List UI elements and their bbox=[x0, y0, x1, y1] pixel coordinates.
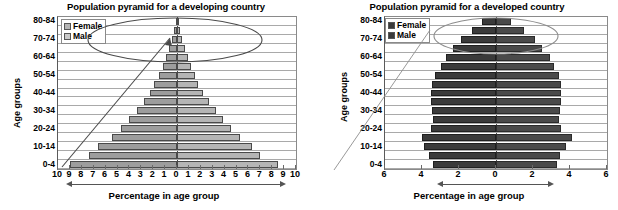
x-tick-label-10: 0 bbox=[173, 169, 178, 179]
bar-female-0-4 bbox=[177, 161, 278, 168]
x-tick-label-6: 6 bbox=[603, 169, 608, 179]
bar-male-30-34 bbox=[432, 107, 496, 114]
x-tick-label-18: 8 bbox=[269, 169, 274, 179]
x-tick-mark bbox=[176, 165, 177, 169]
x-axis-range-arrow-developed bbox=[437, 180, 554, 189]
x-tick-label-13: 3 bbox=[209, 169, 214, 179]
x-tick-mark bbox=[140, 165, 141, 169]
arrow-shaft bbox=[71, 184, 281, 185]
y-tick-label-0-4: 0-4 bbox=[370, 160, 382, 168]
y-tick-label-10-14: 10-14 bbox=[360, 142, 382, 150]
y-tick-label-40-44: 40-44 bbox=[33, 88, 55, 96]
x-tick-mark bbox=[283, 165, 284, 169]
x-tick-mark bbox=[495, 165, 496, 169]
bar-male-15-19 bbox=[422, 134, 496, 141]
x-tick-mark bbox=[384, 165, 385, 169]
bar-female-70-74 bbox=[177, 36, 182, 43]
x-tick-label-20: 10 bbox=[290, 169, 300, 179]
bar-male-30-34 bbox=[137, 107, 177, 114]
bar-female-40-44 bbox=[496, 90, 561, 97]
bar-female-15-19 bbox=[496, 134, 572, 141]
bar-male-60-64 bbox=[166, 54, 177, 61]
bar-female-30-34 bbox=[177, 107, 216, 114]
y-axis-ticks-developed: 0-410-1420-2430-3440-4450-5460-6470-7480… bbox=[348, 16, 382, 168]
bar-female-0-4 bbox=[496, 161, 557, 168]
bar-female-20-24 bbox=[496, 125, 561, 132]
legend-item-male: Male bbox=[388, 30, 426, 40]
x-tick-label-19: 9 bbox=[281, 169, 286, 179]
bar-female-75-79 bbox=[177, 27, 180, 34]
x-tick-mark bbox=[458, 165, 459, 169]
bar-female-65-69 bbox=[496, 45, 542, 52]
x-tick-mark bbox=[224, 165, 225, 169]
y-tick-label-50-54: 50-54 bbox=[360, 70, 382, 78]
x-tick-mark bbox=[105, 165, 106, 169]
bar-female-20-24 bbox=[177, 125, 231, 132]
x-tick-label-14: 4 bbox=[221, 169, 226, 179]
y-tick-label-70-74: 70-74 bbox=[33, 34, 55, 42]
legend-swatch-female-icon bbox=[388, 22, 395, 29]
bar-male-45-49 bbox=[154, 81, 177, 88]
legend-developed: Female Male bbox=[385, 18, 430, 43]
y-tick-label-80-84: 80-84 bbox=[360, 16, 382, 24]
y-tick-label-80-84: 80-84 bbox=[33, 16, 55, 24]
x-tick-label-17: 7 bbox=[257, 169, 262, 179]
bar-male-25-29 bbox=[129, 116, 177, 123]
x-tick-label-12: 2 bbox=[197, 169, 202, 179]
x-tick-label-15: 5 bbox=[233, 169, 238, 179]
y-tick-label-20-24: 20-24 bbox=[360, 124, 382, 132]
y-tick-label-20-24: 20-24 bbox=[33, 124, 55, 132]
x-tick-mark bbox=[212, 165, 213, 169]
bar-male-45-49 bbox=[432, 81, 496, 88]
bar-male-25-29 bbox=[433, 116, 496, 123]
x-tick-mark bbox=[200, 165, 201, 169]
bar-female-30-34 bbox=[496, 107, 560, 114]
bar-female-50-54 bbox=[177, 72, 195, 79]
x-tick-label-4: 2 bbox=[529, 169, 534, 179]
x-axis-title-developed: Percentage in age group bbox=[310, 190, 618, 201]
x-tick-mark bbox=[247, 165, 248, 169]
bar-male-0-4 bbox=[433, 161, 496, 168]
legend-label-female: Female bbox=[397, 20, 426, 30]
bar-female-5-9 bbox=[177, 152, 260, 159]
legend-label-male: Male bbox=[73, 31, 92, 41]
bar-male-20-24 bbox=[431, 125, 496, 132]
x-tick-label-3: 7 bbox=[90, 169, 95, 179]
bar-female-40-44 bbox=[177, 90, 203, 97]
bar-male-35-39 bbox=[431, 98, 496, 105]
arrow-right-icon bbox=[548, 181, 554, 187]
y-axis-ticks-developing: 0-410-1420-2430-3440-4450-5460-6470-7480… bbox=[21, 16, 55, 168]
x-tick-label-5: 5 bbox=[114, 169, 119, 179]
y-tick-label-50-54: 50-54 bbox=[33, 70, 55, 78]
bar-male-10-14 bbox=[98, 143, 177, 150]
bar-male-60-64 bbox=[446, 54, 496, 61]
x-tick-mark bbox=[81, 165, 82, 169]
bar-male-70-74 bbox=[461, 36, 496, 43]
x-tick-label-0: 10 bbox=[52, 169, 62, 179]
y-tick-label-70-74: 70-74 bbox=[360, 34, 382, 42]
x-tick-label-8: 2 bbox=[150, 169, 155, 179]
x-tick-mark bbox=[69, 165, 70, 169]
x-tick-mark bbox=[128, 165, 129, 169]
x-tick-label-2: 2 bbox=[455, 169, 460, 179]
bar-female-15-19 bbox=[177, 134, 240, 141]
bar-male-15-19 bbox=[112, 134, 177, 141]
population-pyramid-figure: Population pyramid for a developing coun… bbox=[0, 0, 618, 210]
x-tick-label-0: 6 bbox=[381, 169, 386, 179]
x-tick-mark bbox=[532, 165, 533, 169]
bar-male-65-69 bbox=[169, 45, 177, 52]
y-tick-label-0-4: 0-4 bbox=[43, 160, 55, 168]
bar-female-25-29 bbox=[177, 116, 223, 123]
legend-swatch-male-icon bbox=[388, 32, 395, 39]
x-tick-mark bbox=[236, 165, 237, 169]
x-tick-mark bbox=[164, 165, 165, 169]
x-tick-mark bbox=[569, 165, 570, 169]
x-tick-mark bbox=[188, 165, 189, 169]
x-tick-label-7: 3 bbox=[138, 169, 143, 179]
y-tick-label-60-64: 60-64 bbox=[33, 52, 55, 60]
x-tick-mark bbox=[259, 165, 260, 169]
bar-female-80-84 bbox=[496, 18, 511, 25]
bar-female-35-39 bbox=[177, 98, 209, 105]
arrow-right-icon bbox=[280, 181, 286, 187]
x-tick-mark bbox=[117, 165, 118, 169]
